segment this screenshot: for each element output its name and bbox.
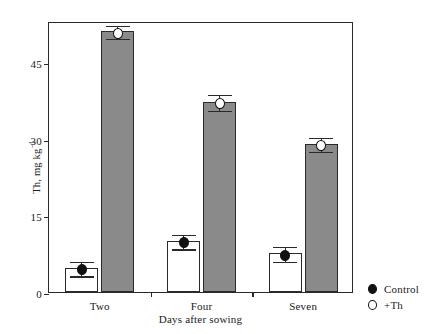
y-tick-label: 0 (36, 289, 42, 300)
filled-circle-icon (280, 250, 290, 261)
error-bar-cap-top (208, 95, 232, 96)
error-bar-cap-top (172, 235, 196, 236)
x-tick-mark (151, 292, 152, 297)
plot-area: 0153045 TwoFourSeven (48, 22, 353, 293)
legend-label-th: +Th (384, 299, 403, 311)
y-axis-title-text: Th, mg kg (31, 149, 42, 194)
y-axis-title-exponent: −1 (28, 140, 37, 148)
y-tick-mark (44, 294, 49, 295)
y-tick-label: 45 (31, 58, 42, 69)
error-bar-cap-bottom (309, 152, 333, 153)
chart-figure: 0153045 TwoFourSeven Th, mg kg−1 Days af… (0, 0, 438, 334)
error-bar-cap-top (309, 138, 333, 139)
x-group-label-two: Two (90, 300, 110, 312)
legend-item-th: +Th (368, 297, 438, 313)
y-axis-title: Th, mg kg−1 (28, 140, 42, 194)
error-bar-cap-bottom (172, 249, 196, 250)
error-bar-cap-bottom (70, 276, 94, 277)
legend-label-control: Control (384, 283, 419, 295)
open-circle-icon (215, 98, 225, 109)
legend-item-control: Control (368, 281, 438, 297)
open-circle-icon (113, 28, 123, 39)
bar-seven-th (305, 144, 338, 292)
x-tick-mark (252, 292, 253, 297)
error-bar-cap-top (70, 262, 94, 263)
error-bar-cap-top (273, 247, 297, 248)
y-tick-label: 15 (31, 212, 42, 223)
y-tick-mark (44, 64, 49, 65)
filled-circle-icon (179, 237, 189, 248)
x-axis-title: Days after sowing (48, 313, 353, 325)
error-bar-cap-bottom (208, 111, 232, 112)
x-group-label-four: Four (191, 300, 213, 312)
open-circle-icon (368, 300, 377, 310)
error-bar-cap-bottom (106, 39, 130, 40)
chart-legend: Control +Th (368, 281, 438, 313)
bar-two-th (101, 31, 134, 292)
y-tick-mark (44, 141, 49, 142)
bar-four-th (203, 102, 236, 292)
filled-circle-icon (368, 284, 377, 294)
error-bar-cap-bottom (273, 262, 297, 263)
x-group-label-seven: Seven (289, 300, 317, 312)
y-tick-mark (44, 217, 49, 218)
